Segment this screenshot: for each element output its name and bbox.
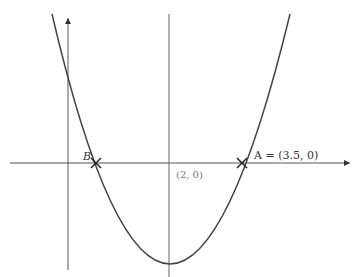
point-a-label: A = (3.5, 0) xyxy=(253,149,318,162)
point-b-label: B xyxy=(82,150,91,163)
parabola-curve xyxy=(52,14,290,264)
symmetry-label: (2, 0) xyxy=(176,169,203,180)
parabola-diagram: B A = (3.5, 0) (2, 0) xyxy=(0,0,359,277)
